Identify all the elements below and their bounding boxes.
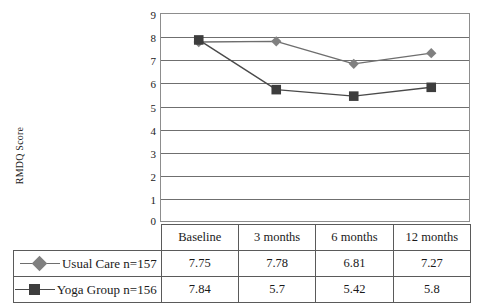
data-point-usual-care-2 — [349, 59, 359, 69]
table-header-6-months: 6 months — [316, 225, 393, 251]
legend-label-yoga-group: Yoga Group n=156 — [57, 282, 157, 298]
legend-item-yoga-group[interactable]: Yoga Group n=156 — [14, 277, 162, 303]
table-header-12-months: 12 months — [393, 225, 470, 251]
legend-item-usual-care[interactable]: Usual Care n=157 — [14, 251, 162, 277]
cell-yoga-group-12-months: 5.8 — [393, 277, 470, 303]
table-header-baseline: Baseline — [161, 225, 238, 251]
data-point-yoga-group-0 — [194, 35, 204, 45]
cell-usual-care-12-months: 7.27 — [393, 251, 470, 277]
data-table: Baseline 3 months 6 months 12 months Usu… — [13, 224, 471, 303]
data-point-yoga-group-1 — [271, 85, 281, 95]
y-tick-3: 3 — [140, 149, 156, 160]
y-tick-1: 1 — [140, 195, 156, 206]
y-tick-4: 4 — [140, 126, 156, 137]
cell-yoga-group-baseline: 7.84 — [161, 277, 238, 303]
cell-usual-care-6-months: 6.81 — [316, 251, 393, 277]
cell-usual-care-3-months: 7.78 — [238, 251, 315, 277]
series-yoga-group — [194, 35, 436, 101]
y-axis-title: RMDQ Score — [14, 101, 25, 211]
data-point-yoga-group-2 — [349, 91, 359, 101]
y-tick-2: 2 — [140, 172, 156, 183]
yoga-group-marker-icon — [15, 283, 55, 297]
y-tick-9: 9 — [140, 10, 156, 21]
table-header-row: Baseline 3 months 6 months 12 months — [14, 225, 471, 251]
data-point-usual-care-3 — [426, 48, 436, 58]
legend-label-usual-care: Usual Care n=157 — [62, 256, 157, 272]
data-point-usual-care-1 — [271, 36, 281, 46]
y-tick-5: 5 — [140, 103, 156, 114]
data-point-yoga-group-3 — [426, 83, 436, 93]
cell-usual-care-baseline: 7.75 — [161, 251, 238, 277]
table-row: Yoga Group n=156 7.84 5.7 5.42 5.8 — [14, 277, 471, 303]
cell-yoga-group-3-months: 5.7 — [238, 277, 315, 303]
cell-yoga-group-6-months: 5.42 — [316, 277, 393, 303]
y-tick-6: 6 — [140, 79, 156, 90]
series-usual-care — [194, 36, 437, 69]
series-layer — [160, 13, 470, 222]
usual-care-marker-icon — [20, 257, 60, 271]
table-row: Usual Care n=157 7.75 7.78 6.81 7.27 — [14, 251, 471, 277]
table-header-3-months: 3 months — [238, 225, 315, 251]
table-corner-cell — [14, 225, 162, 251]
y-tick-7: 7 — [140, 56, 156, 67]
y-tick-8: 8 — [140, 33, 156, 44]
